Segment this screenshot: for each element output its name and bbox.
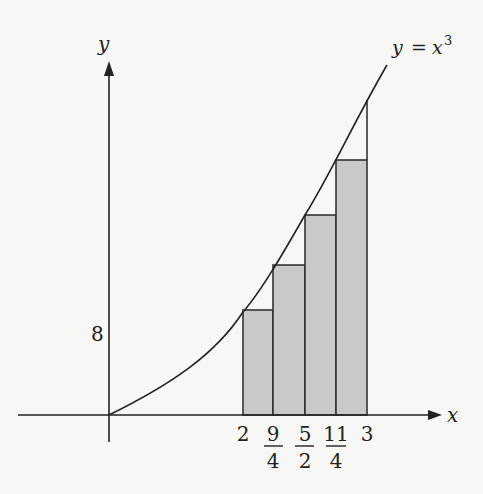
y-axis-arrow-icon [104, 61, 114, 76]
curve-label: y = x 3 [391, 33, 452, 58]
x-tick-2: 2 [237, 422, 250, 446]
svg-text:3: 3 [444, 33, 452, 48]
y-axis-label: y [97, 32, 110, 56]
x-tick-3: 3 [361, 422, 374, 446]
x-axis-arrow-icon [428, 410, 442, 420]
svg-text:=: = [411, 36, 427, 58]
svg-text:9: 9 [267, 422, 280, 446]
svg-text:5: 5 [299, 422, 312, 446]
svg-text:4: 4 [267, 449, 280, 473]
svg-text:y: y [391, 36, 403, 58]
svg-text:2: 2 [299, 449, 312, 473]
rectangle-1 [243, 310, 273, 415]
svg-text:x: x [432, 36, 443, 58]
riemann-sum-figure: y x y = x 3 8 2 9 4 5 2 11 4 3 [0, 0, 483, 494]
svg-text:11: 11 [323, 422, 348, 446]
x-tick-labels: 2 9 4 5 2 11 4 3 [237, 422, 374, 473]
x-axis-label: x [447, 403, 458, 427]
y-tick-8: 8 [91, 322, 104, 346]
rectangle-3 [305, 215, 336, 415]
x-tick-11-4: 11 4 [323, 422, 348, 473]
x-tick-5-2: 5 2 [295, 422, 314, 473]
x-tick-9-4: 9 4 [264, 422, 283, 473]
rectangle-2 [273, 265, 305, 415]
svg-text:4: 4 [330, 449, 343, 473]
rectangle-4 [336, 160, 367, 415]
